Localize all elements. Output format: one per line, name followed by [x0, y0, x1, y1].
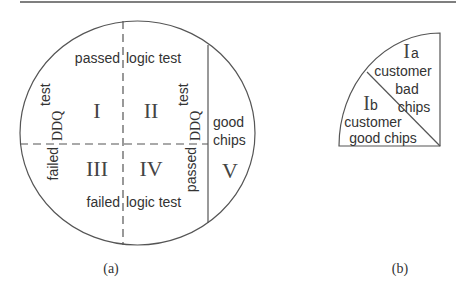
wafer-test-diagram: passed logic test failed logic test fail… [0, 0, 456, 292]
caption-a: (a) [103, 261, 119, 277]
region-Ib-line1: customer [344, 114, 402, 130]
region-Ib-line2: good chips [349, 130, 417, 146]
left-ddq-result: failed [45, 147, 61, 180]
region-Ia-line2: bad [395, 81, 418, 97]
bottom-logic-result: failed [87, 194, 120, 210]
region-Ib-numeral: I [363, 92, 370, 114]
good-chips-line1: good [213, 114, 244, 130]
region-Ia-line3: chips [398, 99, 431, 115]
right-ddq-suffix: test [175, 83, 191, 106]
region-IV: IV [139, 156, 162, 181]
region-III: III [86, 156, 108, 181]
region-Ib-subscript: b [370, 97, 378, 113]
left-ddq-test: DDQ [50, 111, 65, 141]
caption-b: (b) [392, 261, 409, 277]
region-Ia-line1: customer [374, 63, 432, 79]
right-ddq-test: DDQ [188, 111, 203, 141]
panel-a: passed logic test failed logic test fail… [20, 21, 255, 277]
left-ddq-suffix: test [37, 83, 53, 106]
region-V: V [222, 158, 238, 183]
left-ddq-label: failed DDQ test [37, 83, 65, 180]
right-ddq-label: passed DDQ test [175, 83, 203, 192]
region-Ia-subscript: a [411, 45, 419, 61]
right-ddq-result: passed [183, 147, 199, 192]
region-I: I [93, 98, 100, 123]
region-Ia-numeral: I [403, 40, 410, 62]
top-logic-label: logic test [126, 50, 181, 66]
panel-b: I a customer bad chips I b customer good… [339, 33, 440, 277]
bottom-logic-label: logic test [126, 194, 181, 210]
region-II: II [144, 98, 159, 123]
good-chips-line2: chips [213, 132, 246, 148]
top-logic-result: passed [75, 50, 120, 66]
